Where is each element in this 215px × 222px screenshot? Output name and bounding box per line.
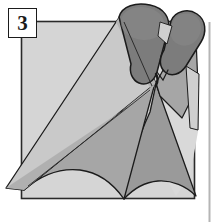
step-number-badge: 3 <box>8 8 37 38</box>
figure-illustration: 3 <box>0 0 215 222</box>
step-number-label: 3 <box>17 13 28 34</box>
